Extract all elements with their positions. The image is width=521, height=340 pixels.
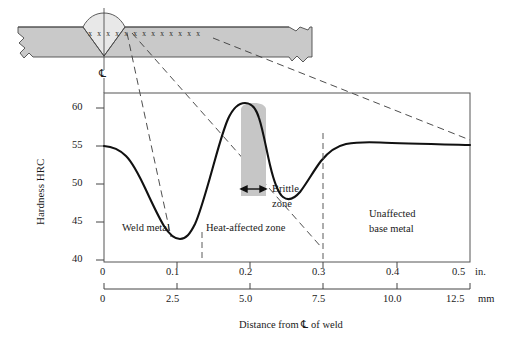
svg-text:x: x bbox=[142, 29, 146, 38]
unaffected-base-metal-label-line2: base metal bbox=[369, 223, 414, 234]
brittle-zone-label-line2: zone bbox=[272, 198, 292, 209]
plot-frame bbox=[104, 93, 470, 262]
centerline-label: ℄ bbox=[99, 67, 106, 80]
svg-text:x: x bbox=[187, 29, 191, 38]
projection-line-weld-boundary bbox=[127, 33, 171, 237]
x-unit-mm: mm bbox=[478, 293, 494, 304]
welded-joint-cross-section: x x x x x x x x x x x x x bbox=[18, 8, 312, 93]
x-axis-title: Distance from ℄ of weld bbox=[239, 318, 343, 330]
base-plate-body bbox=[18, 27, 312, 62]
svg-text:x: x bbox=[88, 29, 92, 38]
x-tick-mm-2p5: 2.5 bbox=[166, 293, 179, 304]
figure-canvas: x x x x x x x x x x x x x bbox=[0, 0, 521, 340]
svg-text:x: x bbox=[169, 29, 173, 38]
projection-lines bbox=[127, 33, 470, 248]
y-axis-title: Hardness HRC bbox=[34, 159, 46, 225]
y-tick-50: 50 bbox=[72, 177, 83, 188]
x-tick-in-0p5: 0.5 bbox=[452, 266, 465, 277]
x-tick-mm-10p0: 10.0 bbox=[383, 293, 401, 304]
brittle-zone-label-line1: Brittle bbox=[272, 183, 299, 194]
svg-text:x: x bbox=[106, 29, 110, 38]
unaffected-base-metal-label-line1: Unaffected bbox=[369, 208, 415, 219]
projection-line-haz-boundary bbox=[132, 33, 322, 248]
y-tick-45: 45 bbox=[72, 215, 83, 226]
svg-text:x: x bbox=[115, 29, 119, 38]
svg-text:x: x bbox=[196, 29, 200, 38]
brittle-zone-shading bbox=[241, 103, 266, 196]
weld-hardness-figure: x x x x x x x x x x x x x bbox=[0, 0, 521, 340]
svg-text:x: x bbox=[160, 29, 164, 38]
x-tick-mm-7p5: 7.5 bbox=[312, 293, 325, 304]
y-tick-55: 55 bbox=[72, 139, 83, 150]
x-tick-mm-0: 0 bbox=[100, 293, 105, 304]
x-tick-in-0p4: 0.4 bbox=[386, 266, 399, 277]
x-axis-inch-ticks bbox=[177, 262, 397, 268]
weld-metal-label: Weld metal bbox=[122, 222, 170, 233]
svg-text:x: x bbox=[178, 29, 182, 38]
x-tick-in-0: 0 bbox=[100, 266, 105, 277]
svg-text:x: x bbox=[151, 29, 155, 38]
x-axis-scalebars bbox=[104, 283, 470, 289]
x-tick-mm-12p5: 12.5 bbox=[446, 293, 464, 304]
x-tick-in-0p1: 0.1 bbox=[166, 266, 179, 277]
x-tick-in-0p3: 0.3 bbox=[312, 266, 325, 277]
x-tick-mm-5p0: 5.0 bbox=[239, 293, 252, 304]
y-tick-60: 60 bbox=[72, 101, 83, 112]
heat-affected-zone-label: Heat-affected zone bbox=[206, 222, 285, 233]
x-unit-inch: in. bbox=[475, 266, 486, 277]
svg-text:x: x bbox=[97, 29, 101, 38]
y-axis-ticks bbox=[96, 108, 104, 260]
y-tick-40: 40 bbox=[72, 253, 83, 264]
x-tick-in-0p2: 0.2 bbox=[239, 266, 252, 277]
